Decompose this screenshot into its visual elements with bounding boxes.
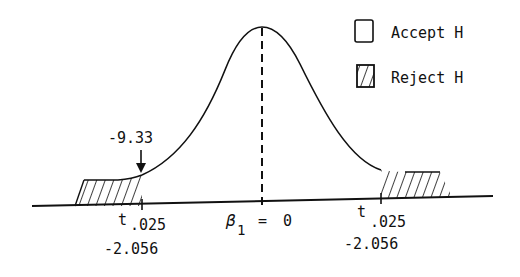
beta-subscript: 1: [237, 222, 245, 238]
right-rejection-region: [381, 170, 452, 198]
right-critical-symbol: t: [357, 203, 366, 221]
accept-swatch: [355, 20, 373, 42]
accept-label: Accept H: [391, 24, 463, 42]
arrow-head-icon: [136, 163, 146, 173]
center-value: 0: [283, 212, 292, 230]
left-critical-value: -2.056: [104, 240, 158, 258]
reject-label: Reject H: [391, 69, 463, 87]
right-critical-value: -2.056: [344, 235, 398, 253]
right-critical-subscript: .025: [370, 213, 406, 231]
beta-symbol: β: [225, 211, 236, 230]
legend: Accept H Reject H: [355, 20, 463, 87]
left-critical-symbol: t: [118, 211, 127, 229]
observed-value-label: -9.33: [108, 129, 153, 147]
hypothesis-test-diagram: -9.33 t .025 -2.056 β 1 = 0 t .025 -2.05…: [0, 0, 520, 277]
left-critical-subscript: .025: [130, 216, 166, 234]
reject-swatch: [357, 65, 374, 87]
equals-sign: =: [258, 212, 267, 230]
